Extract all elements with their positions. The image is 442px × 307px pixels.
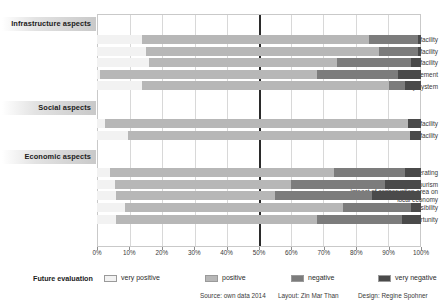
segment-p-income-generating — [110, 168, 334, 177]
segment-vn-electricity-system — [405, 81, 421, 90]
x-tick-label-50: 50% — [244, 249, 274, 256]
segment-vn-health-facility — [408, 119, 421, 128]
credit-layout: Layout: Zin Mar Than — [278, 292, 339, 299]
segment-vn-waste-management — [398, 70, 421, 79]
x-tick-label-40: 40% — [212, 249, 242, 256]
segment-p-job-opportunity — [116, 215, 317, 224]
segment-vp-health-facility — [97, 119, 105, 128]
legend-label-positive: positive — [222, 274, 246, 281]
x-tick-label-70: 70% — [309, 249, 339, 256]
x-tick-label-10: 10% — [114, 249, 144, 256]
segment-p-waste-management — [100, 70, 317, 79]
segment-vn-information-facility — [418, 35, 421, 44]
x-tick-label-80: 80% — [341, 249, 371, 256]
bar-market-accessibility — [97, 203, 421, 212]
segment-n-information-facility — [369, 35, 418, 44]
segment-vp-income-generating — [97, 168, 110, 177]
chart-root: Infrastructure aspectsinformation facili… — [0, 0, 442, 307]
bar-transportation-facility — [97, 58, 421, 67]
bar-education-facility — [97, 131, 421, 140]
bar-waste-management — [97, 70, 421, 79]
segment-p-transportation-facility — [149, 58, 337, 67]
credit-source: Source: own data 2014 — [200, 292, 266, 299]
x-tick-label-20: 20% — [147, 249, 177, 256]
segment-p-information-facility — [142, 35, 369, 44]
segment-vp-job-opportunity — [97, 215, 116, 224]
segment-vn-market-accessibility — [411, 203, 421, 212]
segment-vn-communication-facility — [418, 47, 421, 56]
segment-vp-education-facility — [97, 131, 128, 140]
legend-label-very-positive: very positive — [121, 274, 160, 281]
bar-impact-of-conservation-area-on-local-economy — [97, 191, 421, 200]
segment-vp-information-facility — [97, 35, 142, 44]
segment-vp-transportation-facility — [97, 58, 149, 67]
bar-health-facility — [97, 119, 421, 128]
credits: Source: own data 2014 Layout: Zin Mar Th… — [0, 292, 442, 305]
segment-p-market-accessibility — [125, 203, 344, 212]
x-tick-label-60: 60% — [276, 249, 306, 256]
segment-n-market-accessibility — [343, 203, 411, 212]
segment-n-job-opportunity — [317, 215, 401, 224]
segment-vn-impact-of-conservation-area-on-local-economy — [372, 191, 421, 200]
legend-label-negative: negative — [308, 274, 334, 281]
x-tick-label-0: 0% — [82, 249, 112, 256]
segment-p-eco-tourism — [115, 180, 292, 189]
legend-swatch-negative — [291, 275, 304, 283]
segment-vp-communication-facility — [97, 47, 146, 56]
segment-vp-eco-tourism — [97, 180, 115, 189]
group-header-economic-aspects: Economic aspects — [2, 150, 96, 164]
legend-swatch-very-positive — [104, 275, 117, 283]
bar-communication-facility — [97, 47, 421, 56]
segment-n-impact-of-conservation-area-on-local-economy — [275, 191, 372, 200]
segment-vp-impact-of-conservation-area-on-local-economy — [97, 191, 116, 200]
segment-n-communication-facility — [379, 47, 418, 56]
credit-design: Design: Regine Spohner — [358, 292, 428, 299]
segment-vp-market-accessibility — [97, 203, 125, 212]
bar-income-generating — [97, 168, 421, 177]
segment-n-electricity-system — [389, 81, 405, 90]
segment-vn-transportation-facility — [411, 58, 421, 67]
segment-vn-education-facility — [410, 131, 421, 140]
segment-p-communication-facility — [146, 47, 379, 56]
legend-label-very-negative: very negative — [395, 274, 437, 281]
segment-n-transportation-facility — [337, 58, 412, 67]
bar-electricity-system — [97, 81, 421, 90]
bar-job-opportunity — [97, 215, 421, 224]
legend-swatch-very-negative — [378, 275, 391, 283]
x-tick-label-90: 90% — [374, 249, 404, 256]
segment-n-income-generating — [334, 168, 405, 177]
segment-vn-job-opportunity — [402, 215, 421, 224]
legend-title: Future evaluation — [33, 274, 93, 283]
x-tick-label-100: 100% — [406, 249, 436, 256]
segment-p-impact-of-conservation-area-on-local-economy — [116, 191, 275, 200]
segment-vp-electricity-system — [97, 81, 142, 90]
segment-p-education-facility — [128, 131, 410, 140]
group-header-infrastructure-aspects: Infrastructure aspects — [2, 17, 96, 31]
segment-n-waste-management — [317, 70, 398, 79]
x-tick-label-30: 30% — [179, 249, 209, 256]
segment-vn-income-generating — [405, 168, 421, 177]
legend-swatch-positive — [205, 275, 218, 283]
group-header-social-aspects: Social aspects — [2, 101, 96, 115]
segment-p-electricity-system — [142, 81, 388, 90]
bar-information-facility — [97, 35, 421, 44]
segment-p-health-facility — [105, 119, 408, 128]
legend: Future evaluation very positivepositiven… — [0, 272, 442, 286]
